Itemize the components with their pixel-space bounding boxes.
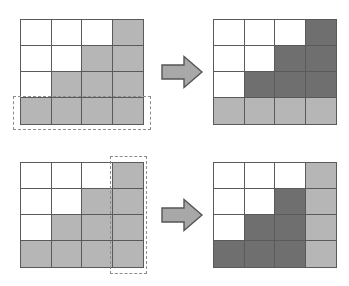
grid-cell[interactable] xyxy=(306,20,337,46)
figure-canvas xyxy=(0,0,349,286)
grid-cell[interactable] xyxy=(21,72,52,98)
grid-cell[interactable] xyxy=(245,98,276,124)
cell-grid xyxy=(20,19,144,125)
cell-grid xyxy=(20,162,144,268)
grid-cell[interactable] xyxy=(113,46,144,72)
diagram-row xyxy=(0,143,349,286)
grid-cell[interactable] xyxy=(306,163,337,189)
grid-cell[interactable] xyxy=(245,46,276,72)
grid-cell[interactable] xyxy=(52,241,83,267)
grid-cell[interactable] xyxy=(214,98,245,124)
right-arrow-icon xyxy=(160,197,204,233)
grid-cell[interactable] xyxy=(21,189,52,215)
grid-cell[interactable] xyxy=(52,46,83,72)
grid-cell[interactable] xyxy=(275,189,306,215)
grid-cell[interactable] xyxy=(113,241,144,267)
grid-cell[interactable] xyxy=(82,241,113,267)
diagram-row xyxy=(0,0,349,143)
grid-panel-after xyxy=(213,162,337,268)
grid-cell[interactable] xyxy=(113,163,144,189)
grid-cell[interactable] xyxy=(52,20,83,46)
grid-cell[interactable] xyxy=(214,20,245,46)
cell-grid xyxy=(213,19,337,125)
grid-cell[interactable] xyxy=(245,215,276,241)
grid-cell[interactable] xyxy=(82,215,113,241)
cell-grid xyxy=(213,162,337,268)
grid-cell[interactable] xyxy=(214,72,245,98)
grid-cell[interactable] xyxy=(113,20,144,46)
grid-cell[interactable] xyxy=(245,163,276,189)
grid-cell[interactable] xyxy=(214,46,245,72)
grid-cell[interactable] xyxy=(245,72,276,98)
grid-cell[interactable] xyxy=(82,98,113,124)
grid-cell[interactable] xyxy=(306,189,337,215)
grid-cell[interactable] xyxy=(275,241,306,267)
grid-cell[interactable] xyxy=(245,241,276,267)
grid-cell[interactable] xyxy=(82,72,113,98)
grid-panel-before xyxy=(20,162,144,268)
grid-cell[interactable] xyxy=(214,215,245,241)
grid-cell[interactable] xyxy=(21,241,52,267)
grid-cell[interactable] xyxy=(82,20,113,46)
grid-cell[interactable] xyxy=(214,163,245,189)
right-arrow-icon xyxy=(160,54,204,90)
grid-cell[interactable] xyxy=(82,163,113,189)
grid-cell[interactable] xyxy=(306,72,337,98)
grid-cell[interactable] xyxy=(275,98,306,124)
grid-cell[interactable] xyxy=(275,163,306,189)
grid-cell[interactable] xyxy=(113,215,144,241)
grid-cell[interactable] xyxy=(21,46,52,72)
grid-panel-after xyxy=(213,19,337,125)
grid-cell[interactable] xyxy=(52,163,83,189)
grid-cell[interactable] xyxy=(214,189,245,215)
grid-cell[interactable] xyxy=(21,215,52,241)
grid-cell[interactable] xyxy=(21,98,52,124)
grid-cell[interactable] xyxy=(306,241,337,267)
grid-cell[interactable] xyxy=(214,241,245,267)
grid-cell[interactable] xyxy=(306,215,337,241)
grid-cell[interactable] xyxy=(245,189,276,215)
grid-cell[interactable] xyxy=(52,189,83,215)
grid-cell[interactable] xyxy=(275,20,306,46)
grid-cell[interactable] xyxy=(52,215,83,241)
grid-cell[interactable] xyxy=(82,46,113,72)
grid-cell[interactable] xyxy=(82,189,113,215)
grid-cell[interactable] xyxy=(21,20,52,46)
grid-cell[interactable] xyxy=(21,163,52,189)
grid-cell[interactable] xyxy=(113,189,144,215)
grid-cell[interactable] xyxy=(52,98,83,124)
grid-cell[interactable] xyxy=(275,46,306,72)
grid-cell[interactable] xyxy=(113,98,144,124)
grid-cell[interactable] xyxy=(306,46,337,72)
grid-cell[interactable] xyxy=(306,98,337,124)
grid-cell[interactable] xyxy=(275,72,306,98)
grid-cell[interactable] xyxy=(113,72,144,98)
grid-cell[interactable] xyxy=(245,20,276,46)
grid-cell[interactable] xyxy=(275,215,306,241)
grid-panel-before xyxy=(20,19,144,125)
grid-cell[interactable] xyxy=(52,72,83,98)
